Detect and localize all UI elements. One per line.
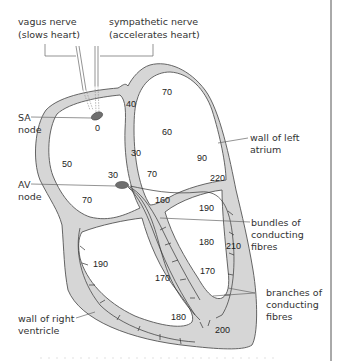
time-left-atrium-top: 70: [162, 87, 172, 97]
time-right-atrium-mid: 50: [62, 159, 72, 169]
av-node-label: AV node: [18, 179, 42, 202]
time-right-ventricle-floor: 180: [171, 312, 186, 322]
bundles-label: bundles of conducting fibres: [251, 217, 307, 252]
time-septum-atrial: 30: [131, 148, 141, 158]
time-right-ventricle: 190: [93, 259, 108, 269]
sympathetic-nerve-label: sympathetic nerve (accelerates heart): [109, 16, 201, 40]
time-septum-lower: 170: [155, 273, 170, 283]
branches-label: branches of conducting fibres: [266, 287, 325, 322]
time-left-atrium-lower: 90: [197, 153, 207, 163]
time-left-ventricle-wall: 210: [226, 241, 241, 251]
time-apex: 200: [215, 325, 230, 335]
time-left-ventricle-top: 220: [210, 173, 225, 183]
vagus-leader: [45, 44, 76, 56]
time-left-atrium-mid: 60: [162, 127, 172, 137]
sympathetic-leader: [100, 44, 153, 56]
heart-conduction-diagram: vagus nerve (slows heart) sympathetic ne…: [0, 0, 337, 361]
time-left-ventricle-inner: 170: [200, 266, 215, 276]
av-node: [116, 182, 129, 189]
time-av-top: 30: [108, 170, 118, 180]
time-left-ventricle-upper: 190: [199, 203, 214, 213]
time-atrial-floor-right: 70: [147, 169, 157, 179]
wall-right-ventricle-label: wall of right ventricle: [18, 313, 77, 336]
time-atrial-floor-left: 70: [82, 195, 92, 205]
time-av-below: 160: [155, 195, 170, 205]
wall-left-atrium-label: wall of left atrium: [250, 132, 302, 155]
time-sa: 0: [95, 123, 100, 133]
time-left-ventricle-mid: 180: [199, 237, 214, 247]
time-right-atrium-upper: 40: [126, 99, 136, 109]
sa-node-label: SA node: [18, 112, 42, 135]
vagus-nerve-label: vagus nerve (slows heart): [18, 16, 80, 40]
